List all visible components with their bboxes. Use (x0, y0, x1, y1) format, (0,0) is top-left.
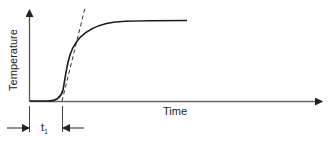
temperature-curve (30, 21, 188, 102)
x-axis-label: Time (163, 105, 187, 117)
tangent-line (62, 8, 85, 101)
t1-subscript: 1 (44, 128, 48, 135)
temperature-time-diagram: Temperature Time t1 (0, 0, 329, 142)
y-axis-label: Temperature (7, 29, 19, 91)
t1-label: t1 (41, 121, 48, 135)
